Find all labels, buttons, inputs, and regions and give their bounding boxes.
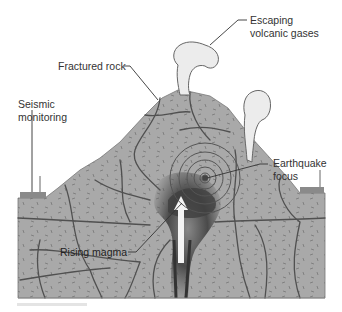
caption-placeholder [17, 303, 87, 306]
label-fractured-rock: Fractured rock [58, 60, 126, 73]
label-escaping-gases: Escaping volcanic gases [250, 14, 319, 40]
seismic-station-left [20, 125, 46, 198]
label-rising-magma: Rising magma [60, 246, 127, 259]
gas-plume-summit [174, 42, 219, 95]
volcano-diagram [0, 0, 342, 312]
label-earthquake-focus: Earthquake focus [273, 157, 327, 183]
label-seismic-monitoring: Seismic monitoring [18, 98, 67, 124]
